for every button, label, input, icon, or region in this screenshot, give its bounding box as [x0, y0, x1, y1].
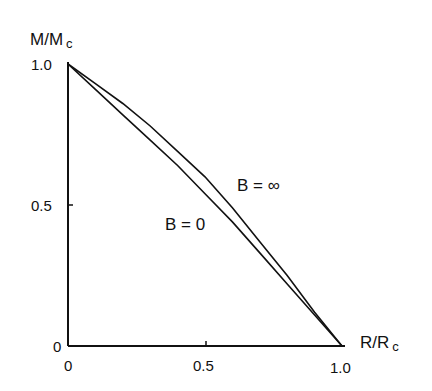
y-tick-label-1: 1.0	[31, 56, 52, 73]
y-axis-title: M/Mc	[30, 30, 73, 50]
x-tick-label-1: 1.0	[330, 359, 351, 376]
y-tick-label-05: 0.5	[31, 197, 52, 214]
x-tick-label-05: 0.5	[193, 357, 214, 374]
curve-b-zero	[68, 64, 342, 346]
y-axis-title-subscript: c	[66, 36, 73, 51]
x-axis-title-text: R/R	[360, 333, 389, 352]
curve-b-infinity	[68, 64, 342, 346]
y-tick-label-0: 0	[53, 338, 61, 355]
y-axis-title-text: M/M	[30, 30, 63, 49]
x-tick-label-0: 0	[64, 357, 72, 374]
annotation-b-infinity: B = ∞	[237, 176, 280, 196]
annotation-b-zero: B = 0	[165, 215, 205, 235]
x-axis-title-subscript: c	[392, 339, 399, 354]
x-axis-title: R/Rc	[360, 333, 399, 353]
